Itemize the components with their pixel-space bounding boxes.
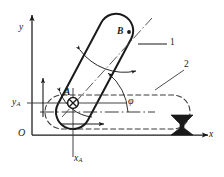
figure-drawing (0, 0, 224, 177)
xa-label-subscript: A (79, 156, 83, 163)
y-axis-label: y (19, 23, 23, 33)
kinematics-figure: y x O yA xA A B φ 1 2 (0, 0, 224, 177)
support-pedestal (171, 115, 193, 135)
point-a-marker (68, 98, 79, 109)
body-position-2 (40, 70, 190, 129)
point-a-label: A (64, 88, 70, 98)
angle-phi-label: φ (128, 96, 134, 106)
xa-label: xA (74, 154, 82, 164)
body-position-2-label: 2 (184, 60, 189, 70)
xa-label-base: x (74, 153, 78, 163)
label-2-leader (155, 70, 184, 90)
rotation-arc-upper (80, 50, 136, 72)
ya-label-subscript: A (17, 100, 21, 107)
ya-label: yA (12, 98, 20, 108)
body-position-1-label: 1 (170, 38, 175, 48)
point-b-label: B (117, 27, 123, 37)
origin-label: O (18, 128, 25, 138)
point-b-marker (127, 30, 131, 34)
x-axis-label: x (209, 130, 213, 140)
ya-label-base: y (12, 97, 16, 107)
